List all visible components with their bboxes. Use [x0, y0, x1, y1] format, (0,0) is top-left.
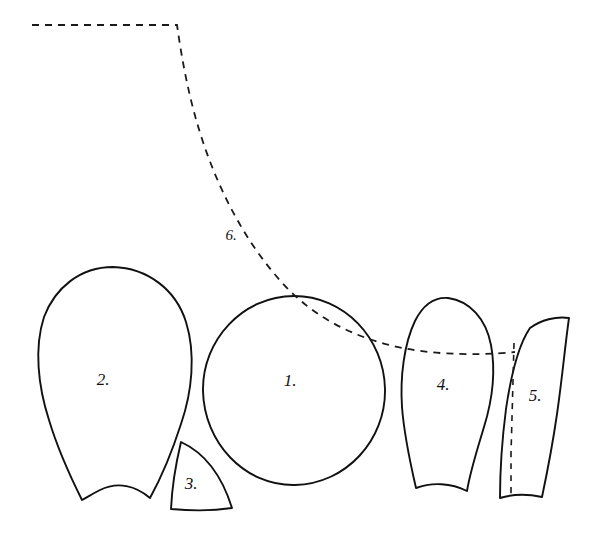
piece-3-label: 3.	[184, 474, 198, 493]
piece-4-label: 4.	[437, 375, 450, 394]
piece-4-outline[interactable]	[402, 298, 494, 491]
piece-1-label: 1.	[284, 371, 297, 390]
piece-2-outline[interactable]	[38, 267, 191, 500]
piece-5-label: 5.	[529, 386, 542, 405]
piece-1-outline[interactable]	[203, 296, 385, 485]
curve-6-label: 6.	[225, 227, 236, 243]
piece-5-outline[interactable]	[500, 317, 569, 498]
piece-2-label: 2.	[97, 370, 110, 389]
pattern-diagram: 2. 1. 3. 4. 5. 6.	[0, 0, 613, 533]
piece-3-outline[interactable]	[171, 442, 232, 510]
diagram-canvas: 2. 1. 3. 4. 5. 6.	[0, 0, 613, 533]
